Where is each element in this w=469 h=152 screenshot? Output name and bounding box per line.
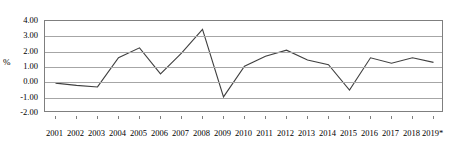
y-tick-label: 4.00 [23,16,38,25]
x-tick-label: 2004 [109,128,126,138]
x-tick-label: 2016 [361,128,378,138]
x-tick-mark [349,116,350,119]
line-chart: % 4.003.002.001.000.00-1.00-2.00 2001200… [0,0,469,152]
gridline [45,67,442,68]
x-tick-label: 2018 [403,128,420,138]
x-tick-label: 2005 [130,128,147,138]
x-tick-mark [160,116,161,119]
y-axis-title: % [3,58,11,67]
x-tick-mark [307,116,308,119]
x-tick-mark [55,116,56,119]
x-tick-mark [370,116,371,119]
x-tick-label: 2010 [235,128,252,138]
x-tick-label: 2017 [382,128,399,138]
x-tick-label: 2006 [151,128,168,138]
x-tick-mark [244,116,245,119]
x-tick-label: 2003 [88,128,105,138]
gridline [45,98,442,99]
gridline [45,82,442,83]
x-tick-mark [286,116,287,119]
x-tick-mark [391,116,392,119]
gridline [45,36,442,37]
x-tick-label: 2019* [422,128,443,138]
x-tick-mark [433,116,434,119]
x-tick-label: 2002 [67,128,84,138]
gridline [45,52,442,53]
x-tick-mark [223,116,224,119]
x-tick-mark [76,116,77,119]
x-tick-label: 2007 [172,128,189,138]
y-tick-label: 2.00 [23,46,38,55]
x-tick-label: 2014 [319,128,336,138]
x-axis: 2001200220032004200520062007200820092010… [44,116,443,136]
x-tick-mark [328,116,329,119]
x-tick-mark [202,116,203,119]
x-tick-label: 2009 [214,128,231,138]
x-tick-mark [265,116,266,119]
y-tick-label: 1.00 [23,62,38,71]
y-tick-label: 0.00 [23,77,38,86]
x-tick-label: 2013 [298,128,315,138]
y-tick-label: -1.00 [20,92,38,101]
y-axis: % 4.003.002.001.000.00-1.00-2.00 [0,0,42,152]
y-tick-label: -2.00 [20,108,38,117]
x-tick-mark [412,116,413,119]
x-tick-label: 2001 [46,128,63,138]
x-tick-label: 2012 [277,128,294,138]
x-tick-label: 2011 [256,128,273,138]
x-tick-label: 2008 [193,128,210,138]
y-tick-label: 3.00 [23,31,38,40]
x-tick-mark [139,116,140,119]
plot-area [44,20,443,112]
x-tick-mark [181,116,182,119]
x-tick-mark [97,116,98,119]
x-tick-mark [118,116,119,119]
x-tick-label: 2015 [340,128,357,138]
